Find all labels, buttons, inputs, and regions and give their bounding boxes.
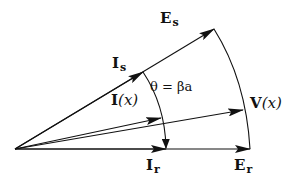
vector-is xyxy=(15,72,143,149)
label-ir: Ir xyxy=(146,158,160,173)
vector-ix xyxy=(15,118,161,149)
vector-vx xyxy=(15,110,243,149)
label-theta: θ = βa xyxy=(150,80,192,93)
outer-arc xyxy=(214,29,250,149)
label-is: Is xyxy=(112,56,126,71)
label-er: Er xyxy=(234,158,252,173)
label-es: Es xyxy=(160,11,179,26)
label-vx: V(x) xyxy=(250,96,282,111)
label-ix: I(x) xyxy=(111,93,138,108)
